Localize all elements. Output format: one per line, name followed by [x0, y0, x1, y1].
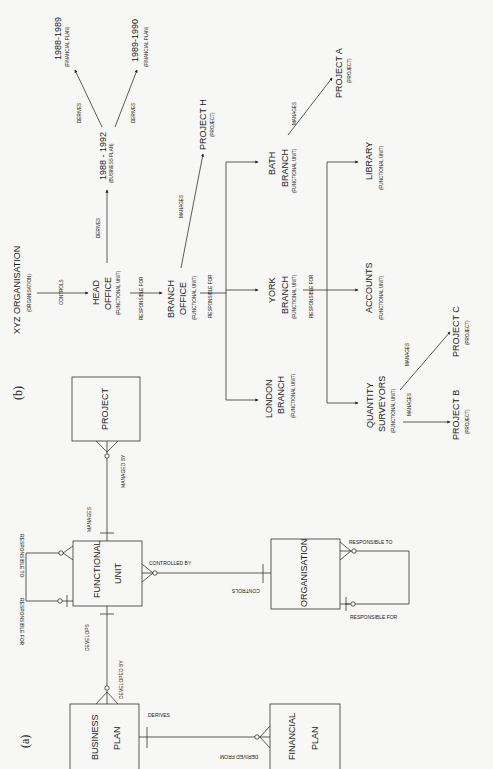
- node-london-2: BRANCH: [277, 376, 286, 414]
- node-branch-office-type: (FUNCTIONAL UNIT): [193, 276, 198, 320]
- node-york-type: (FUNCTIONAL UNIT): [293, 275, 298, 319]
- edge-qs-manages-b: MANAGES: [408, 393, 413, 416]
- rel-develops: DEVELOPS: [85, 624, 90, 651]
- node-head-office-type: (FUNCTIONAL UNIT): [117, 271, 122, 315]
- edge-ho-responsible-for: RESPONSIBLE FOR: [140, 277, 145, 320]
- panel-a-label: (a): [19, 735, 31, 748]
- entity-business-plan-2: PLAN: [113, 726, 122, 750]
- node-business-plan-type: (BUSINESS PLAN): [110, 143, 115, 183]
- node-head-office-1: HEAD: [92, 280, 101, 305]
- node-xyz-organisation: XYZ ORGANISATION: [13, 246, 22, 334]
- rel-derived-from: DERIVED FROM: [220, 754, 258, 760]
- diagram-lines: [0, 0, 493, 769]
- node-xyz-type: (ORGANISATION): [28, 274, 33, 312]
- node-accounts-type: (FUNCTIONAL UNIT): [380, 276, 385, 320]
- node-london-1: LONDON: [265, 379, 274, 418]
- rel-fu-responsible-to: RESPONSIBLE TO: [19, 534, 24, 577]
- node-bath-type: (FUNCTIONAL UNIT): [293, 149, 298, 193]
- rel-manages: MANAGES: [87, 507, 92, 532]
- rel-controlled-by: CONTROLLED BY: [149, 560, 191, 566]
- edge-bp-derives-2: DERIVES: [132, 103, 137, 123]
- node-bath-1: BATH: [268, 152, 277, 175]
- node-bath-2: BRANCH: [281, 149, 290, 187]
- node-project-a: PROJECT A: [335, 48, 344, 98]
- node-york-2: BRANCH: [281, 276, 290, 314]
- node-project-c: PROJECT C: [452, 306, 461, 357]
- rel-developed-by: DEVELOPED BY: [119, 660, 124, 699]
- entity-financial-plan-1: FINANCIAL: [288, 713, 297, 760]
- edge-controls: CONTROLS: [60, 279, 65, 305]
- entity-functional-unit-2: UNIT: [114, 563, 123, 584]
- node-fp-1988-1989-type: (FINANCIAL PLAN): [66, 27, 71, 67]
- node-branch-office-1: BRANCH: [167, 280, 176, 318]
- node-fp-1989-1990: 1989-1990: [131, 19, 140, 62]
- node-head-office-2: OFFICE: [104, 277, 113, 310]
- rel-managed-by: MANAGED BY: [121, 455, 126, 488]
- node-qs-type: (FUNCTIONAL UNIT): [392, 389, 397, 433]
- edge-york-responsible-for: RESPONSIBLE FOR: [310, 275, 315, 318]
- node-project-c-type: (PROJECT): [466, 321, 471, 346]
- edge-bp-derives-1: DERIVES: [78, 103, 83, 123]
- node-project-h: PROJECT H: [199, 99, 208, 150]
- edge-ho-derives: DERIVES: [97, 218, 102, 238]
- edge-bo-responsible-for: RESPONSIBLE FOR: [209, 275, 214, 318]
- node-qs-1: QUANTITY: [366, 382, 375, 428]
- rel-derives: DERIVES: [148, 712, 170, 718]
- node-fp-1988-1989: 1988-1989: [54, 17, 63, 60]
- node-fp-1989-1990-type: (FINANCIAL PLAN): [145, 27, 150, 67]
- edge-bath-manages: MANAGES: [293, 102, 298, 125]
- entity-functional-unit-1: FUNCTIONAL: [93, 540, 102, 598]
- node-project-h-type: (PROJECT): [211, 113, 216, 138]
- entity-project: PROJECT: [101, 388, 110, 430]
- entity-financial-plan-2: PLAN: [311, 726, 320, 750]
- rel-org-responsible-for: RESPONSIBLE FOR: [350, 614, 397, 620]
- node-accounts: ACCOUNTS: [365, 262, 374, 313]
- node-library: LIBRARY: [365, 142, 374, 180]
- node-qs-2: SURVEYORS: [378, 376, 387, 432]
- panel-b-label: (b): [12, 386, 24, 400]
- node-project-a-type: (PROJECT): [348, 59, 353, 84]
- edge-qs-manages-c: MANAGES: [406, 343, 411, 366]
- rel-fu-responsible-for: RESPONSIBLE FOR: [19, 598, 24, 645]
- node-york-1: YORK: [268, 277, 277, 303]
- rel-org-responsible-to: RESPONSIBLE TO: [349, 539, 392, 545]
- node-london-type: (FUNCTIONAL UNIT): [292, 374, 297, 418]
- entity-business-plan-1: BUSINESS: [91, 714, 100, 760]
- node-branch-office-2: OFFICE: [179, 282, 188, 315]
- entity-organisation: ORGANISATION: [300, 539, 309, 607]
- node-library-type: (FUNCTIONAL UNIT): [380, 146, 385, 190]
- node-project-b-type: (PROJECT): [466, 410, 471, 435]
- rel-controls: CONTROLS: [232, 588, 260, 594]
- node-project-b: PROJECT B: [452, 390, 461, 440]
- node-business-plan: 1988 - 1992: [99, 132, 108, 180]
- edge-bo-manages: MANAGES: [180, 195, 185, 218]
